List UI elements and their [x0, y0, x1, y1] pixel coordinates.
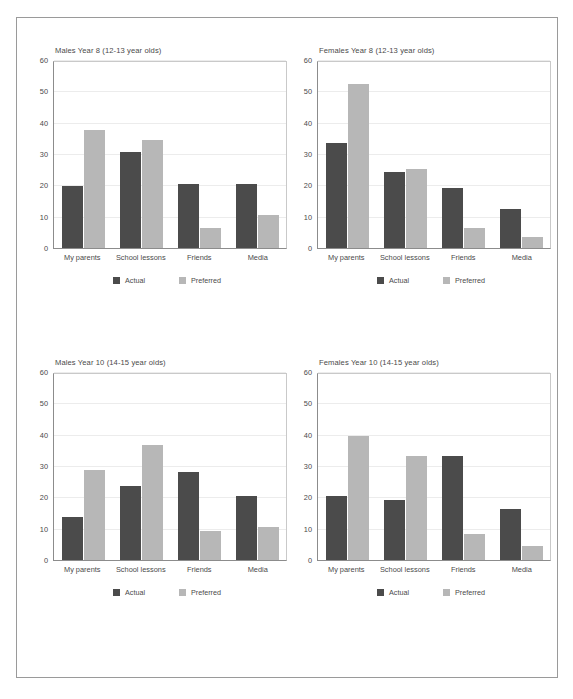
- plot-wrapper: 0102030405060: [295, 61, 557, 249]
- x-tick-label: My parents: [317, 565, 376, 574]
- chart-panel-3: Females Year 10 (14-15 year olds)0102030…: [295, 358, 557, 648]
- chart-title: Females Year 8 (12-13 year olds): [319, 46, 557, 55]
- bar-group: [228, 62, 286, 248]
- y-tick-label: 50: [304, 401, 312, 408]
- gridline: [318, 60, 550, 61]
- y-tick-label: 30: [40, 151, 48, 158]
- gridline: [54, 60, 286, 61]
- legend-swatch-icon: [377, 589, 384, 596]
- bar-actual: [384, 500, 405, 560]
- legend-swatch-icon: [377, 277, 384, 284]
- bar-group: [376, 62, 434, 248]
- y-axis: 0102030405060: [295, 61, 315, 249]
- legend-label: Preferred: [191, 276, 221, 285]
- bar-group: [228, 374, 286, 560]
- bar-group: [434, 374, 492, 560]
- x-tick-label: School lessons: [376, 253, 435, 262]
- plot-area: [53, 373, 287, 561]
- bar-group: [318, 374, 376, 560]
- legend-label: Actual: [389, 276, 409, 285]
- x-tick-label: My parents: [53, 565, 112, 574]
- legend-label: Actual: [389, 588, 409, 597]
- bar-group: [170, 62, 228, 248]
- chart-panel-1: Females Year 8 (12-13 year olds)01020304…: [295, 46, 557, 336]
- legend-swatch-icon: [179, 277, 186, 284]
- y-tick-label: 10: [40, 526, 48, 533]
- y-tick-label: 20: [40, 183, 48, 190]
- x-axis: My parentsSchool lessonsFriendsMedia: [317, 253, 551, 262]
- x-tick-label: Media: [229, 253, 288, 262]
- x-tick-label: School lessons: [112, 253, 171, 262]
- gridline: [318, 372, 550, 373]
- bar-group: [376, 374, 434, 560]
- legend-item-preferred: Preferred: [179, 276, 221, 285]
- x-tick-label: Friends: [434, 565, 493, 574]
- x-tick-label: Media: [493, 253, 552, 262]
- bar-actual: [236, 496, 257, 560]
- bar-actual: [326, 496, 347, 560]
- bar-preferred: [522, 546, 543, 560]
- chart-legend: ActualPreferred: [305, 276, 557, 285]
- bar-actual: [442, 188, 463, 248]
- chart-legend: ActualPreferred: [41, 276, 293, 285]
- bar-preferred: [348, 84, 369, 248]
- plot-area: [53, 61, 287, 249]
- bar-preferred: [84, 470, 105, 560]
- legend-item-preferred: Preferred: [179, 588, 221, 597]
- charts-grid: Males Year 8 (12-13 year olds)0102030405…: [17, 18, 557, 677]
- plot-wrapper: 0102030405060: [31, 61, 293, 249]
- x-tick-label: Media: [493, 565, 552, 574]
- bar-preferred: [84, 130, 105, 248]
- chart-panel-2: Males Year 10 (14-15 year olds)010203040…: [31, 358, 293, 648]
- y-tick-label: 40: [304, 120, 312, 127]
- bars-layer: [54, 62, 286, 248]
- y-tick-label: 40: [40, 120, 48, 127]
- bar-actual: [442, 456, 463, 560]
- y-tick-label: 0: [44, 557, 48, 564]
- bar-actual: [62, 517, 83, 560]
- chart-title: Males Year 8 (12-13 year olds): [55, 46, 293, 55]
- y-tick-label: 40: [40, 432, 48, 439]
- bar-group: [112, 374, 170, 560]
- y-axis: 0102030405060: [31, 61, 51, 249]
- x-tick-label: Friends: [434, 253, 493, 262]
- legend-item-actual: Actual: [113, 588, 145, 597]
- plot-wrapper: 0102030405060: [31, 373, 293, 561]
- legend-item-actual: Actual: [113, 276, 145, 285]
- bar-preferred: [142, 445, 163, 560]
- bar-preferred: [258, 527, 279, 560]
- chart-title: Males Year 10 (14-15 year olds): [55, 358, 293, 367]
- x-tick-label: Friends: [170, 253, 229, 262]
- y-tick-label: 60: [304, 369, 312, 376]
- bar-preferred: [522, 237, 543, 248]
- y-tick-label: 20: [40, 495, 48, 502]
- bar-preferred: [406, 456, 427, 560]
- legend-swatch-icon: [113, 589, 120, 596]
- bar-group: [54, 62, 112, 248]
- bars-layer: [318, 62, 550, 248]
- x-tick-label: My parents: [53, 253, 112, 262]
- legend-swatch-icon: [179, 589, 186, 596]
- legend-label: Preferred: [455, 276, 485, 285]
- bar-actual: [384, 172, 405, 248]
- y-axis: 0102030405060: [295, 373, 315, 561]
- plot-area: [317, 373, 551, 561]
- y-tick-label: 0: [308, 245, 312, 252]
- plot-area: [317, 61, 551, 249]
- y-tick-label: 0: [44, 245, 48, 252]
- y-tick-label: 30: [304, 463, 312, 470]
- bar-preferred: [142, 140, 163, 249]
- gridline: [54, 372, 286, 373]
- bar-preferred: [348, 436, 369, 560]
- y-tick-label: 20: [304, 183, 312, 190]
- bar-actual: [500, 209, 521, 248]
- legend-item-preferred: Preferred: [443, 276, 485, 285]
- bar-preferred: [200, 228, 221, 248]
- x-tick-label: Friends: [170, 565, 229, 574]
- bar-actual: [120, 152, 141, 248]
- bar-group: [54, 374, 112, 560]
- legend-label: Preferred: [455, 588, 485, 597]
- bar-group: [170, 374, 228, 560]
- y-tick-label: 50: [40, 89, 48, 96]
- bar-actual: [120, 486, 141, 560]
